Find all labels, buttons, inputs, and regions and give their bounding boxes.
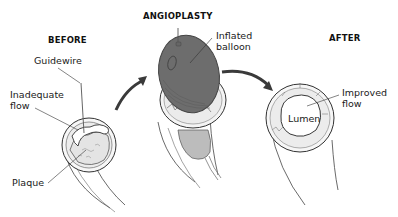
label-inflated-balloon: Inflated balloon bbox=[216, 30, 252, 52]
label-guidewire: Guidewire bbox=[34, 55, 82, 66]
before-artery bbox=[62, 83, 125, 212]
stage-title-after: AFTER bbox=[329, 33, 361, 43]
stage-title-before: BEFORE bbox=[48, 35, 87, 45]
arrow-before-to-angioplasty bbox=[116, 76, 147, 110]
stage-title-angioplasty: ANGIOPLASTY bbox=[143, 11, 213, 21]
label-improved-flow: Improved flow bbox=[342, 87, 387, 109]
angioplasty-diagram: BEFORE ANGIOPLASTY AFTER Guidewire Inade… bbox=[0, 0, 398, 217]
arrow-angioplasty-to-after bbox=[222, 71, 273, 91]
label-lumen: Lumen bbox=[288, 113, 320, 124]
label-plaque: Plaque bbox=[12, 177, 44, 188]
angioplasty-artery bbox=[152, 28, 227, 188]
after-artery bbox=[266, 83, 338, 205]
label-inadequate-flow: Inadequate flow bbox=[10, 89, 64, 111]
